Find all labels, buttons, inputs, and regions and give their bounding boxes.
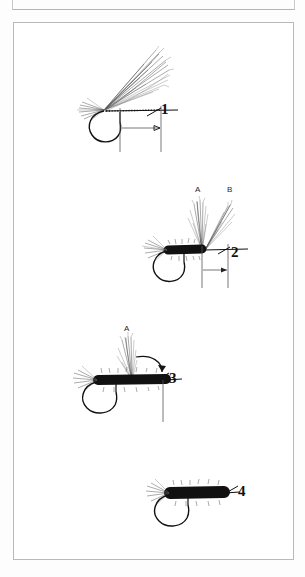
fig2-tail bbox=[142, 236, 167, 262]
figure-3-label-a: A bbox=[124, 325, 129, 333]
figure-2-label-b: B bbox=[227, 186, 232, 194]
scanned-page: 1 bbox=[0, 0, 305, 577]
fig2-wing-a bbox=[188, 196, 208, 250]
figure-3: A 3 bbox=[70, 322, 200, 432]
fig3-fold-arrow bbox=[136, 356, 166, 372]
fig2-body bbox=[168, 238, 202, 261]
figure-4: 4 bbox=[140, 468, 255, 543]
figure-1: 1 bbox=[60, 40, 190, 165]
figure-2: A B 2 bbox=[140, 178, 260, 293]
fig4-body bbox=[170, 479, 224, 506]
figure-2-label-a: A bbox=[195, 186, 200, 194]
fig3-wing-a bbox=[117, 332, 137, 380]
fig3-tail bbox=[73, 366, 97, 392]
fig1-butt-stub bbox=[77, 98, 104, 121]
top-frame-fragment bbox=[12, 0, 295, 10]
fig2-wing-b bbox=[205, 200, 235, 250]
